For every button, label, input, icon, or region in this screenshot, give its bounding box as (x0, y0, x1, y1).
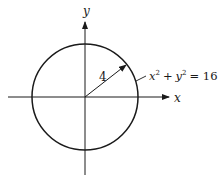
equation-equals: = 16 (190, 69, 218, 83)
x-axis-label: x (174, 91, 181, 105)
circle-equation: x2+y2= 16 (149, 69, 218, 83)
equation-leader-line (136, 76, 146, 81)
equation-plus: + (163, 69, 173, 83)
equation-y-exponent: 2 (182, 69, 186, 77)
radius-label: 4 (99, 70, 107, 84)
circle-diagram: y x 4 x2+y2= 16 (0, 0, 219, 179)
y-axis-label: y (82, 4, 90, 18)
equation-x-exponent: 2 (156, 69, 160, 77)
